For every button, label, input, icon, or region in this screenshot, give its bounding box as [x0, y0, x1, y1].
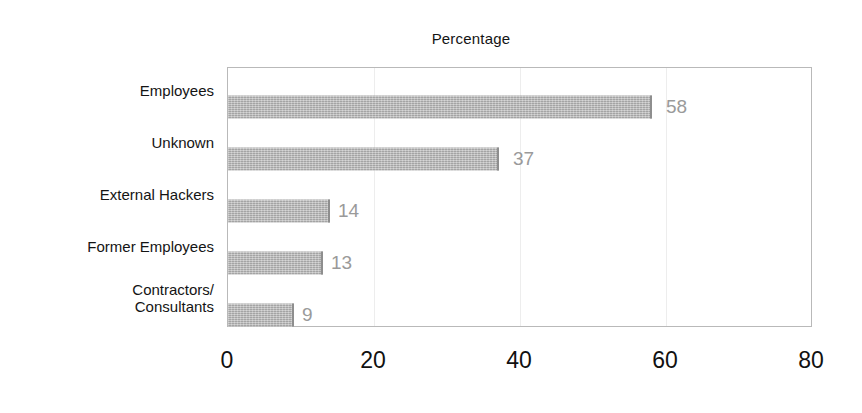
category-label-contractors-consultants: Contractors/ Consultants [0, 281, 214, 315]
category-label-line-1: Unknown [151, 134, 214, 151]
xtick-label-40: 40 [479, 347, 559, 374]
bar-row: 14 [228, 185, 811, 237]
chart-title-text: Percentage [432, 30, 511, 47]
bar-row: 58 [228, 81, 811, 133]
bar-contractors-consultants [228, 304, 294, 327]
xtick-label-0: 0 [187, 347, 267, 374]
category-label-former-employees: Former Employees [0, 238, 214, 255]
plot-area: 58 37 14 13 9 [227, 67, 812, 327]
bar-employees [228, 96, 652, 119]
bar-unknown [228, 148, 499, 171]
bar-former-employees [228, 252, 323, 275]
category-label-external-hackers: External Hackers [0, 186, 214, 203]
bar-value-former-employees: 13 [331, 252, 352, 274]
bar-row: 13 [228, 237, 811, 289]
chart-title: Percentage [0, 30, 862, 47]
category-label-line-1: Employees [140, 82, 214, 99]
bar-value-unknown: 37 [513, 148, 534, 170]
xtick-label-80: 80 [771, 347, 851, 374]
category-label-line-1: Former Employees [87, 238, 214, 255]
category-label-line-1: External Hackers [100, 186, 214, 203]
category-label-unknown: Unknown [0, 134, 214, 151]
category-label-employees: Employees [0, 82, 214, 99]
bar-chart: Percentage Employees Unknown External Ha… [0, 0, 862, 413]
xtick-label-60: 60 [625, 347, 705, 374]
category-label-line-2: Consultants [0, 298, 214, 315]
bar-value-contractors-consultants: 9 [302, 304, 313, 326]
bar-external-hackers [228, 200, 330, 223]
bar-row: 9 [228, 289, 811, 341]
xtick-label-20: 20 [333, 347, 413, 374]
bar-value-employees: 58 [666, 96, 687, 118]
bar-row: 37 [228, 133, 811, 185]
category-label-line-1: Contractors/ [132, 281, 214, 298]
bar-value-external-hackers: 14 [338, 200, 359, 222]
